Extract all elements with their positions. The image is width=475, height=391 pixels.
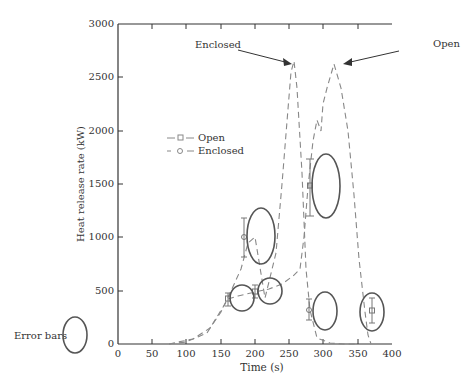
- y-axis-tick-labels: 0 500 1000 1500 2000 2500 3000: [89, 18, 114, 349]
- x-axis-label: Time (s): [240, 361, 283, 373]
- svg-text:0: 0: [108, 338, 114, 349]
- annotation-enclosed: Enclosed: [195, 39, 242, 50]
- svg-text:2000: 2000: [89, 125, 114, 136]
- svg-text:1000: 1000: [89, 231, 114, 242]
- svg-text:2500: 2500: [89, 71, 114, 82]
- svg-text:500: 500: [95, 285, 114, 296]
- series-open-line: [169, 64, 371, 344]
- error-bar-ellipses: [230, 154, 384, 331]
- svg-text:0: 0: [115, 348, 121, 359]
- legend-enclosed: [167, 149, 194, 154]
- heat-release-chart: 0 50 100 150 200 250 300 350 400 Time (s…: [0, 0, 475, 391]
- svg-text:100: 100: [176, 348, 195, 359]
- y-axis-ticks: [118, 77, 123, 291]
- legend-open: [167, 135, 194, 140]
- svg-text:Open: Open: [198, 132, 226, 143]
- legend: Open Enclosed: [167, 132, 245, 156]
- svg-text:3000: 3000: [89, 18, 114, 29]
- svg-text:400: 400: [382, 348, 401, 359]
- svg-text:350: 350: [348, 348, 367, 359]
- x-axis-tick-labels: 0 50 100 150 200 250 300 350 400: [115, 348, 402, 359]
- svg-text:50: 50: [146, 348, 159, 359]
- svg-text:1500: 1500: [89, 178, 114, 189]
- svg-text:300: 300: [313, 348, 332, 359]
- svg-text:200: 200: [245, 348, 264, 359]
- svg-text:250: 250: [279, 348, 298, 359]
- svg-text:Enclosed: Enclosed: [198, 145, 245, 156]
- y-axis-label: Heat release rate (kW): [75, 126, 86, 242]
- error-bars-key-label: Error bars: [14, 330, 67, 341]
- annotation-open: Open: [433, 38, 461, 49]
- svg-text:150: 150: [211, 348, 230, 359]
